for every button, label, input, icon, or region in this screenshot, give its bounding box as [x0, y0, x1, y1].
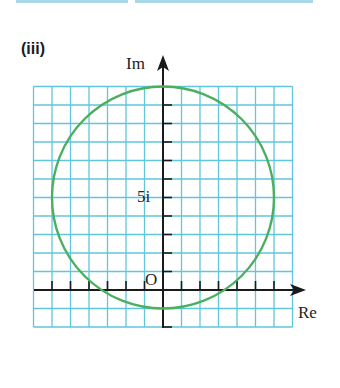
argand-diagram: Im Re O 5i — [0, 0, 340, 388]
im-axis-label: Im — [126, 54, 145, 73]
tick-label-5i: 5i — [137, 187, 151, 206]
re-axis-label: Re — [298, 303, 317, 322]
origin-label: O — [145, 270, 157, 289]
